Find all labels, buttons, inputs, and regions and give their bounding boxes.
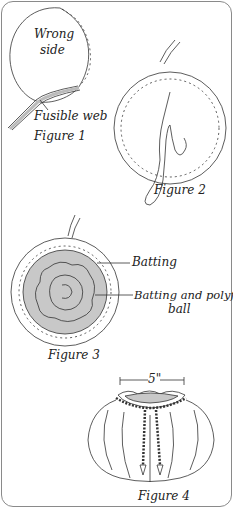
figure4-caption: Figure 4: [138, 490, 190, 503]
figure3-caption: Figure 3: [48, 349, 100, 362]
figure4-drawing: [88, 377, 214, 482]
label-wrong-side-2: side: [40, 44, 65, 57]
label-wrong-side: Wrong: [34, 28, 74, 41]
figure2-drawing: [114, 40, 226, 205]
figure2-caption: Figure 2: [154, 184, 206, 197]
label-ball: ball: [168, 303, 191, 316]
label-fusible-web: Fusible web: [34, 110, 108, 123]
sewing-diagram: [0, 0, 233, 512]
label-batting: Batting: [132, 256, 177, 269]
figure1-caption: Figure 1: [34, 130, 86, 143]
label-batting-polyfil: Batting and polyfil: [134, 289, 233, 302]
figure3-drawing: [11, 215, 133, 346]
dimension-label: 5": [148, 373, 161, 386]
